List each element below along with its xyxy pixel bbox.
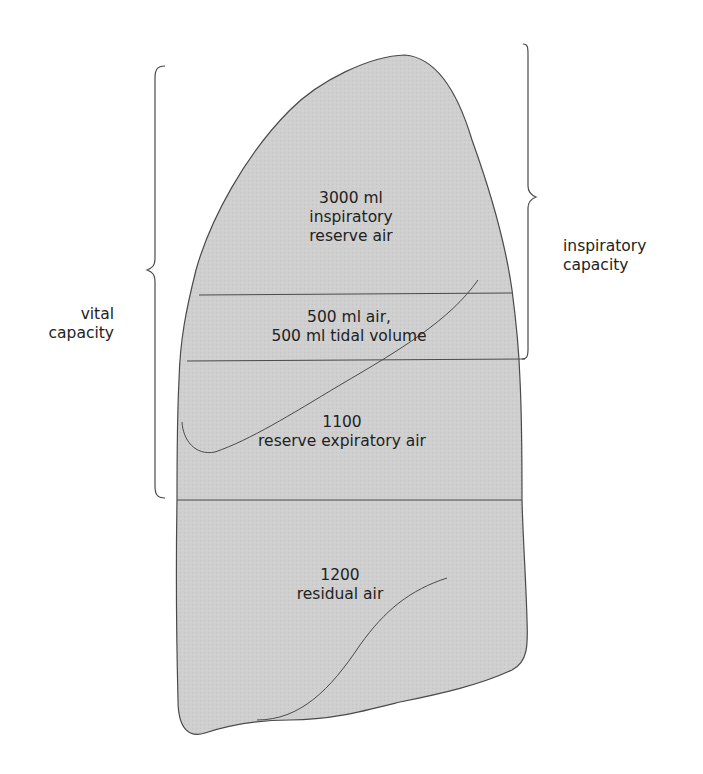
lung-volume-diagram [0, 0, 703, 774]
lung-outline [176, 55, 527, 734]
tidal-label: 500 ml air, 500 ml tidal volume [271, 308, 426, 346]
tidal-volume-text: 500 ml tidal volume [271, 327, 426, 346]
vital-capacity-line2: capacity [30, 324, 114, 343]
inspiratory-capacity-line2: capacity [563, 256, 646, 275]
tidal-air-text: 500 ml air, [271, 308, 426, 327]
vital-capacity-line1: vital [30, 305, 114, 324]
expiratory-reserve-name: reserve expiratory air [258, 432, 426, 451]
inspiratory-reserve-volume: 3000 ml [309, 189, 392, 208]
expiratory-reserve-label: 1100 reserve expiratory air [258, 413, 426, 451]
residual-name: residual air [297, 585, 384, 604]
inspiratory-reserve-label: 3000 ml inspiratory reserve air [309, 189, 392, 246]
vital-capacity-label: vital capacity [30, 305, 114, 343]
residual-volume: 1200 [297, 566, 384, 585]
inspiratory-capacity-label: inspiratory capacity [563, 237, 646, 275]
expiratory-reserve-volume: 1100 [258, 413, 426, 432]
inspiratory-reserve-name-1: inspiratory [309, 208, 392, 227]
inspiratory-capacity-brace [522, 44, 536, 359]
vital-capacity-brace [147, 66, 165, 498]
residual-label: 1200 residual air [297, 566, 384, 604]
inspiratory-capacity-line1: inspiratory [563, 237, 646, 256]
inspiratory-reserve-name-2: reserve air [309, 227, 392, 246]
